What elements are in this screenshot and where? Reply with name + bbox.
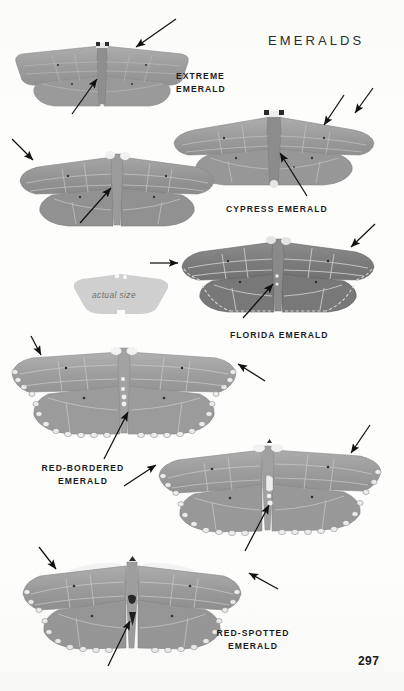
caption-line-1: CYPRESS EMERALD xyxy=(226,203,328,216)
caption-extreme-emerald: EXTREME EMERALD xyxy=(176,70,226,95)
page-number: 297 xyxy=(358,654,379,668)
caption-line-2: EMERALD xyxy=(199,640,307,653)
plate-title: EMERALDS xyxy=(268,33,364,48)
caption-florida-emerald: FLORIDA EMERALD xyxy=(230,329,329,342)
field-guide-page: actual size xyxy=(0,0,404,691)
arrow-redspotted-margin xyxy=(249,573,278,589)
caption-line-1: EXTREME xyxy=(176,70,226,83)
specimen-middle-beaded-emerald xyxy=(154,438,384,538)
specimen-extreme-emerald xyxy=(12,38,192,112)
arrow-redbordered-margin xyxy=(238,364,265,381)
caption-line-1: RED-BORDERED xyxy=(27,462,139,475)
caption-red-bordered-emerald: RED-BORDERED EMERALD xyxy=(27,462,139,487)
caption-line-2: EMERALD xyxy=(176,83,226,96)
caption-red-spotted-emerald: RED-SPOTTED EMERALD xyxy=(199,627,307,652)
specimen-unlabeled-emerald-left xyxy=(18,145,216,233)
caption-line-1: RED-SPOTTED xyxy=(199,627,307,640)
actual-size-label: actual size xyxy=(92,290,136,300)
specimen-red-bordered-emerald xyxy=(8,342,240,442)
specimen-florida-emerald xyxy=(180,232,376,320)
caption-cypress-emerald: CYPRESS EMERALD xyxy=(226,203,328,216)
caption-line-2: EMERALD xyxy=(27,475,139,488)
caption-line-1: FLORIDA EMERALD xyxy=(230,329,329,342)
